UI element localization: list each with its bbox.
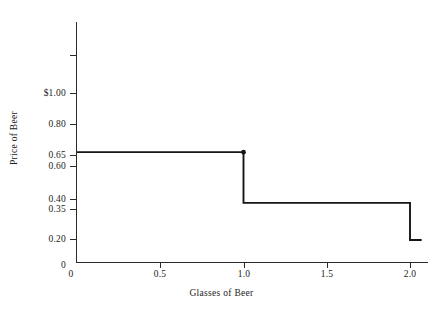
y-axis-tick-top-unlabeled — [70, 55, 77, 56]
x-axis-label-2-0: 2.0 — [390, 269, 430, 280]
x-axis-label-0-5: 0.5 — [140, 269, 180, 280]
x-axis-label-1-0: 1.0 — [224, 269, 264, 280]
curve-point-marker — [241, 150, 246, 155]
y-axis-tick-0-80 — [70, 124, 77, 125]
y-axis-title: Price of Beer — [9, 98, 19, 178]
y-axis-tick-0-65 — [70, 155, 77, 156]
y-axis-tick-0-35 — [70, 209, 77, 210]
x-axis-tick-2-0 — [410, 262, 411, 268]
y-axis-line — [76, 22, 77, 263]
y-axis-label-1-00: $1.00 — [4, 88, 66, 98]
y-axis-label-0-35: 0.35 — [4, 204, 66, 214]
y-axis-label-0-40: 0.40 — [4, 194, 66, 204]
y-axis-tick-0-40 — [70, 199, 77, 200]
y-axis-tick-0-60 — [70, 166, 77, 167]
x-axis-line — [76, 262, 428, 263]
x-axis-tick-0-5 — [160, 262, 161, 268]
step-function-curve — [0, 0, 443, 312]
y-axis-tick-1-00 — [70, 93, 77, 94]
x-axis-label-1-5: 1.5 — [307, 269, 347, 280]
x-axis-title: Glasses of Beer — [0, 288, 443, 298]
x-axis-tick-1-0 — [244, 262, 245, 268]
chart-figure: $1.00 0.80 0.65 0.60 0.40 0.35 0.20 0 0 … — [0, 0, 443, 312]
y-axis-label-0-20: 0.20 — [4, 234, 66, 244]
x-axis-tick-1-5 — [327, 262, 328, 268]
x-axis-label-0: 0 — [51, 269, 91, 280]
y-axis-tick-0-20 — [70, 239, 77, 240]
